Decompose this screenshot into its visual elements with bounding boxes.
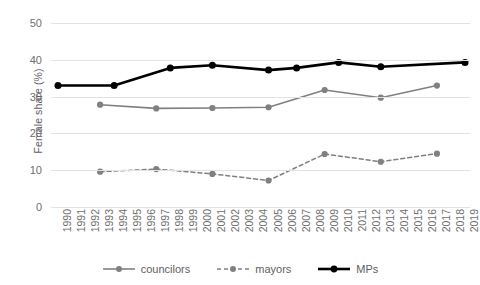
y-axis-tick-labels: 01020304050 bbox=[16, 0, 42, 285]
x-tick-label: 1998 bbox=[174, 209, 185, 232]
x-tick-label: 1993 bbox=[104, 209, 115, 232]
y-tick-label: 50 bbox=[16, 18, 42, 29]
x-tick-label: 2016 bbox=[427, 209, 438, 232]
data-point bbox=[153, 105, 159, 111]
y-tick-label: 0 bbox=[16, 202, 42, 213]
data-point bbox=[209, 62, 216, 69]
legend-swatch-MPs bbox=[317, 263, 351, 275]
gridline bbox=[51, 97, 470, 98]
x-tick-label: 2017 bbox=[441, 209, 452, 232]
x-tick-label: 1990 bbox=[62, 209, 73, 232]
x-tick-label: 2013 bbox=[385, 209, 396, 232]
y-tick-label: 10 bbox=[16, 165, 42, 176]
data-point bbox=[97, 102, 103, 108]
data-point bbox=[322, 151, 328, 157]
plot-area bbox=[51, 23, 470, 207]
x-tick-label: 2000 bbox=[202, 209, 213, 232]
legend-label: mayors bbox=[255, 264, 291, 275]
data-point bbox=[265, 177, 271, 183]
x-tick-label: 2002 bbox=[230, 209, 241, 232]
legend-label: councilors bbox=[141, 264, 191, 275]
x-tick-label: 2014 bbox=[399, 209, 410, 232]
gridline bbox=[51, 133, 470, 134]
data-point bbox=[209, 171, 215, 177]
data-point bbox=[265, 67, 272, 74]
series-line-MPs bbox=[58, 62, 465, 85]
legend-item-MPs[interactable]: MPs bbox=[317, 263, 378, 275]
gridline bbox=[51, 60, 470, 61]
x-tick-label: 1994 bbox=[118, 209, 129, 232]
x-tick-label: 2004 bbox=[258, 209, 269, 232]
data-point bbox=[265, 104, 271, 110]
data-point bbox=[209, 105, 215, 111]
data-point bbox=[111, 82, 118, 89]
data-point bbox=[322, 87, 328, 93]
legend-item-mayors[interactable]: mayors bbox=[216, 263, 291, 275]
series-layer bbox=[51, 23, 470, 207]
y-tick-label: 30 bbox=[16, 91, 42, 102]
data-point bbox=[434, 82, 440, 88]
series-MPs bbox=[55, 59, 469, 89]
data-point bbox=[377, 63, 384, 70]
data-point bbox=[434, 151, 440, 157]
x-tick-label: 2005 bbox=[273, 209, 284, 232]
data-point bbox=[167, 64, 174, 71]
series-line-mayors bbox=[100, 154, 437, 181]
x-tick-label: 2019 bbox=[469, 209, 480, 232]
legend-swatch-mayors bbox=[216, 263, 250, 275]
x-tick-label: 2012 bbox=[371, 209, 382, 232]
chart-legend: councilorsmayorsMPs bbox=[0, 259, 480, 279]
series-mayors bbox=[97, 151, 440, 184]
y-tick-label: 40 bbox=[16, 54, 42, 65]
x-tick-label: 2009 bbox=[329, 209, 340, 232]
data-point bbox=[378, 159, 384, 165]
x-tick-label: 1995 bbox=[132, 209, 143, 232]
x-axis-tick-labels: 1990199119921993199419951996199719981999… bbox=[51, 207, 470, 255]
x-tick-label: 1999 bbox=[188, 209, 199, 232]
legend-label: MPs bbox=[356, 264, 378, 275]
x-tick-label: 2011 bbox=[357, 209, 368, 232]
x-tick-label: 1996 bbox=[146, 209, 157, 232]
x-tick-label: 2018 bbox=[455, 209, 466, 232]
x-tick-label: 2015 bbox=[413, 209, 424, 232]
legend-swatch-councilors bbox=[102, 263, 136, 275]
x-tick-label: 1991 bbox=[76, 209, 87, 232]
data-point bbox=[293, 64, 300, 71]
x-tick-label: 2007 bbox=[301, 209, 312, 232]
x-tick-label: 1992 bbox=[90, 209, 101, 232]
data-point bbox=[55, 82, 62, 89]
data-point bbox=[153, 166, 159, 172]
gridline bbox=[51, 170, 470, 171]
legend-item-councilors[interactable]: councilors bbox=[102, 263, 191, 275]
gridline bbox=[51, 23, 470, 24]
x-tick-label: 1997 bbox=[160, 209, 171, 232]
x-tick-label: 2003 bbox=[244, 209, 255, 232]
x-tick-label: 2006 bbox=[287, 209, 298, 232]
x-tick-label: 2010 bbox=[343, 209, 354, 232]
line-chart: Female share (%) 01020304050 19901991199… bbox=[0, 0, 480, 285]
y-tick-label: 20 bbox=[16, 128, 42, 139]
data-point bbox=[378, 95, 384, 101]
x-tick-label: 2008 bbox=[315, 209, 326, 232]
x-tick-label: 2001 bbox=[216, 209, 227, 232]
